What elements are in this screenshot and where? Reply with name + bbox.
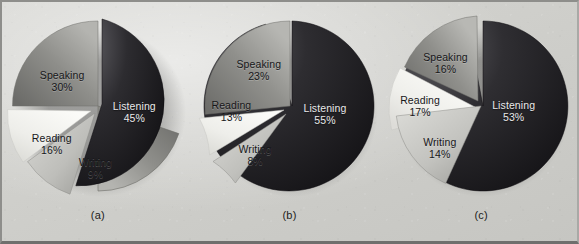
pie-chart-b: Listening 55% Speaking 23% Reading 13% W… <box>199 15 381 197</box>
pie-chart-c: Listening 53% Speaking 16% Reading 17% W… <box>390 15 572 197</box>
pie-a-caption: (a) <box>2 209 194 221</box>
pie-chart-b-svg <box>199 15 381 197</box>
pie-chart-panels: Listening 45% Speaking 30% Reading 16% W… <box>2 2 577 241</box>
pie-chart-a-svg <box>7 15 189 197</box>
pie-c-caption: (c) <box>385 209 577 221</box>
pie-b-slice-speaking[interactable] <box>204 21 289 114</box>
pie-chart-c-svg <box>390 15 572 197</box>
figure-frame: Listening 45% Speaking 30% Reading 16% W… <box>0 0 579 244</box>
pie-chart-panel-a: Listening 45% Speaking 30% Reading 16% W… <box>2 2 194 241</box>
pie-chart-panel-c: Listening 53% Speaking 16% Reading 17% W… <box>385 2 577 241</box>
pie-b-caption: (b) <box>194 209 386 221</box>
pie-b-slices <box>199 21 374 191</box>
pie-chart-panel-b: Listening 55% Speaking 23% Reading 13% W… <box>194 2 386 241</box>
pie-chart-a: Listening 45% Speaking 30% Reading 16% W… <box>7 15 189 197</box>
pie-a-slice-speaking-wedge[interactable] <box>12 21 98 106</box>
